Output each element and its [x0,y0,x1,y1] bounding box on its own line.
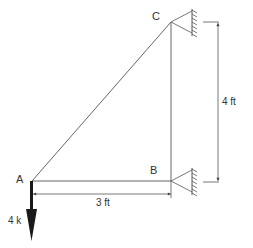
members [32,22,171,181]
dimension-horizontal [33,181,171,198]
node-label-b: B [150,164,157,176]
load-arrow-icon [26,181,37,241]
node-label-c: C [152,10,160,22]
dimension-vertical [203,22,219,182]
pin-support-c-icon [171,9,197,37]
load-label: 4 k [8,215,22,226]
truss-diagram: 4 ft 3 ft 4 k A B C [0,0,253,248]
dimension-label-horizontal: 3 ft [96,197,110,208]
pin-support-b-icon [171,168,197,196]
node-label-a: A [16,173,24,185]
dimension-label-vertical: 4 ft [222,96,236,107]
member-ac [32,22,171,181]
